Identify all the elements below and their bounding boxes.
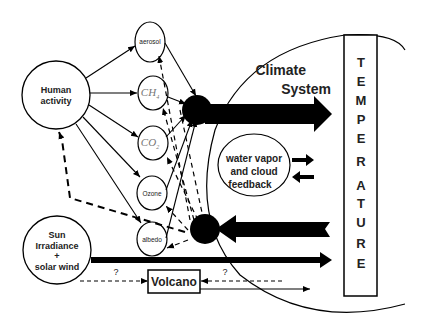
climate-system-label-2: System xyxy=(281,81,331,97)
svg-text:A: A xyxy=(356,178,366,193)
aerosol-label: aerosol xyxy=(139,38,161,45)
sun-label-4: solar wind xyxy=(35,262,80,272)
svg-text:R: R xyxy=(356,236,366,251)
human-activity-node xyxy=(22,61,90,129)
sun-label-1: Sun xyxy=(49,230,66,240)
svg-text:M: M xyxy=(356,93,367,108)
feedback-label-2: and cloud xyxy=(230,166,277,177)
svg-text:R: R xyxy=(356,154,366,169)
volcano-label: Volcano xyxy=(151,275,197,289)
sun-label-2: Irradiance xyxy=(35,241,78,251)
albedo-label: albedo xyxy=(142,236,162,243)
svg-text:T: T xyxy=(357,55,365,70)
feedback-label-3: feedback xyxy=(228,179,272,190)
sun-label-3: + xyxy=(54,251,59,261)
ozone-label: Ozone xyxy=(142,190,162,197)
temperature-label: T E M P E R A T U R E xyxy=(356,55,367,271)
feedback-arrow-left xyxy=(292,171,314,183)
response-arrow-left xyxy=(216,215,330,243)
svg-text:E: E xyxy=(357,256,366,271)
sun-forcing-arrow xyxy=(91,252,332,268)
human-activity-label-2: activity xyxy=(40,96,71,106)
climate-system-label-1: Climate xyxy=(255,62,306,78)
feedback-label-1: water vapor xyxy=(225,153,282,164)
question-right: ? xyxy=(222,267,227,277)
feedback-arrow-right xyxy=(292,154,314,166)
svg-text:T: T xyxy=(357,196,365,211)
svg-text:U: U xyxy=(356,215,365,230)
forcing-arrow-right xyxy=(205,96,332,132)
human-activity-arrows xyxy=(76,46,141,223)
forcing-hub-lower xyxy=(190,214,220,244)
human-activity-label-1: Human xyxy=(41,85,72,95)
question-left: ? xyxy=(113,267,118,277)
svg-text:E: E xyxy=(357,131,366,146)
svg-text:E: E xyxy=(357,74,366,89)
svg-text:P: P xyxy=(357,112,366,127)
climate-diagram: Human activity aerosol CH4 CO2 Ozone alb… xyxy=(0,0,427,317)
